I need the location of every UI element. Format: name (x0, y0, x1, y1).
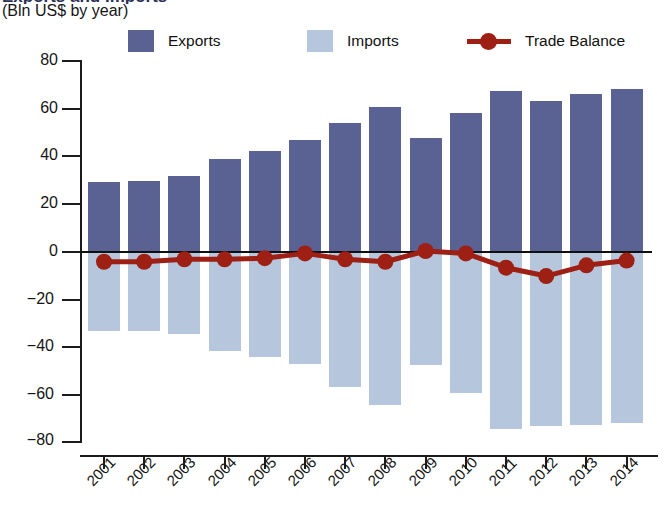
bar-imports-2001 (88, 251, 120, 331)
xtick-label-2001: 2001 (83, 453, 119, 489)
bar-exports-2005 (249, 151, 281, 251)
bar-exports-2002 (128, 181, 160, 251)
xtick-label-2006: 2006 (284, 453, 320, 489)
bar-imports-2007 (329, 251, 361, 387)
bar-exports-2009 (410, 138, 442, 251)
bar-exports-2014 (611, 89, 643, 251)
bar-exports-2010 (450, 113, 482, 251)
bar-imports-2009 (410, 251, 442, 365)
xtick-label-2005: 2005 (244, 453, 280, 489)
x-axis-line (80, 455, 658, 457)
bar-imports-2005 (249, 251, 281, 357)
xtick-label-2003: 2003 (163, 453, 199, 489)
ytick-label-0: 0 (6, 243, 58, 259)
bar-imports-2013 (570, 251, 602, 425)
ytick-label-neg80: −80 (2, 432, 54, 448)
plot-area: 80 60 40 20 0 −20 −40 −60 −80 2001200220… (0, 0, 664, 511)
bar-imports-2010 (450, 251, 482, 393)
bar-exports-2011 (490, 91, 522, 251)
ytick-label-neg60: −60 (2, 386, 54, 402)
bar-imports-2008 (369, 251, 401, 405)
xtick-label-2012: 2012 (525, 453, 561, 489)
ytick-mark-neg60 (62, 394, 82, 396)
xtick-label-2008: 2008 (364, 453, 400, 489)
ytick-mark-neg40 (62, 346, 82, 348)
chart-container: Exports and Imports (Bln US$ by year) Ex… (0, 0, 664, 511)
bar-imports-2006 (289, 251, 321, 364)
xtick-label-2013: 2013 (565, 453, 601, 489)
ytick-mark-neg80 (62, 441, 82, 443)
xtick-label-2011: 2011 (485, 454, 520, 489)
bar-exports-2013 (570, 94, 602, 251)
ytick-label-neg20: −20 (2, 291, 54, 307)
xtick-label-2014: 2014 (606, 453, 642, 489)
ytick-label-20: 20 (6, 195, 58, 211)
ytick-mark-40 (62, 155, 82, 157)
ytick-label-60: 60 (6, 100, 58, 116)
bar-exports-2004 (209, 159, 241, 251)
bar-imports-2004 (209, 251, 241, 351)
ytick-mark-neg20 (62, 299, 82, 301)
xtick-label-2004: 2004 (204, 453, 240, 489)
bar-exports-2001 (88, 182, 120, 251)
bar-imports-2011 (490, 251, 522, 429)
bar-imports-2014 (611, 251, 643, 423)
bar-imports-2012 (530, 251, 562, 426)
ytick-label-neg40: −40 (2, 338, 54, 354)
xtick-label-2002: 2002 (123, 453, 159, 489)
zero-baseline (80, 251, 652, 253)
bar-imports-2003 (168, 251, 200, 334)
bar-exports-2012 (530, 101, 562, 251)
bar-exports-2008 (369, 107, 401, 251)
bar-imports-2002 (128, 251, 160, 331)
ytick-mark-0 (62, 251, 82, 253)
xtick-label-2007: 2007 (324, 453, 360, 489)
bar-exports-2007 (329, 123, 361, 251)
xtick-label-2010: 2010 (445, 453, 481, 489)
bar-exports-2006 (289, 140, 321, 251)
ytick-mark-60 (62, 108, 82, 110)
ytick-label-40: 40 (6, 147, 58, 163)
ytick-label-80: 80 (6, 52, 58, 68)
xtick-label-2009: 2009 (405, 453, 441, 489)
bar-exports-2003 (168, 176, 200, 251)
ytick-mark-20 (62, 203, 82, 205)
ytick-mark-80 (62, 60, 82, 62)
